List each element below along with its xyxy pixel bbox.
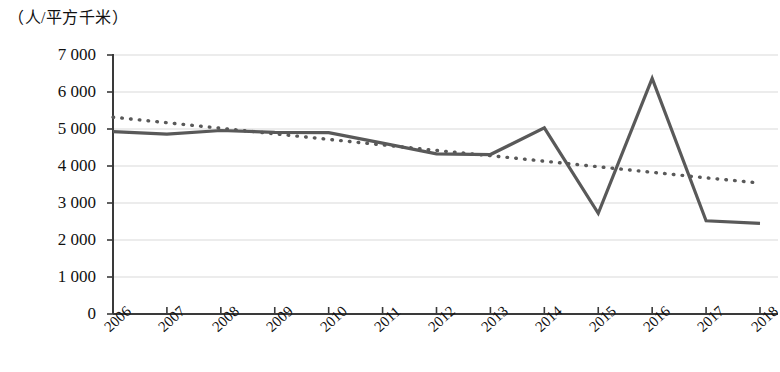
series-trendline bbox=[113, 117, 760, 183]
gridlines bbox=[113, 55, 778, 277]
population-density-line-chart: （人/平方千米） 7 0006 0005 0004 0003 0002 0001… bbox=[0, 0, 780, 372]
axes bbox=[113, 54, 778, 314]
